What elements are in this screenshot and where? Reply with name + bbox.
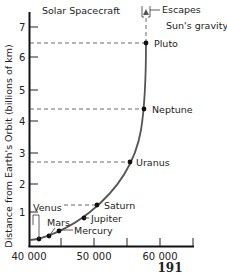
label-saturn: Saturn bbox=[104, 200, 135, 211]
marker-uranus bbox=[128, 160, 133, 165]
y-tick-labels: 7 6 5 4 3 2 1 bbox=[19, 22, 25, 218]
y-tick-2: 2 bbox=[19, 179, 25, 190]
label-jupiter: Jupiter bbox=[90, 213, 122, 224]
escape-label-line2: Sun's gravity bbox=[166, 20, 227, 31]
y-tick-7: 7 bbox=[19, 22, 25, 33]
page-number: 191 bbox=[157, 261, 182, 275]
label-venus: Venus bbox=[33, 202, 62, 213]
y-tick-6: 6 bbox=[19, 52, 25, 63]
y-tick-1: 1 bbox=[19, 207, 25, 218]
y-tick-3: 3 bbox=[19, 148, 25, 159]
label-uranus: Uranus bbox=[136, 157, 170, 168]
y-axis-label: Distance from Earth's Orbit (billions of… bbox=[3, 44, 14, 247]
marker-saturn bbox=[95, 203, 100, 208]
y-tick-5: 5 bbox=[19, 85, 25, 96]
x-ticks bbox=[61, 238, 193, 246]
label-neptune: Neptune bbox=[152, 104, 193, 115]
y-ticks bbox=[30, 27, 38, 212]
label-pluto: Pluto bbox=[154, 38, 178, 49]
y-tick-4: 4 bbox=[19, 116, 25, 127]
guide-lines bbox=[30, 14, 146, 205]
escape-label-line1: Escapes bbox=[162, 4, 201, 15]
marker-mercury bbox=[57, 229, 62, 234]
x-tick-50000: 50 000 bbox=[77, 251, 112, 262]
x-tick-40000: 40 000 bbox=[12, 251, 47, 262]
marker-neptune bbox=[142, 107, 147, 112]
escape-arrow-icon bbox=[142, 6, 160, 17]
chart: Solar Spacecraft Distance from Earth's O… bbox=[0, 0, 227, 277]
marker-pluto bbox=[144, 41, 149, 46]
label-mars: Mars bbox=[47, 217, 70, 228]
label-mercury: Mercury bbox=[74, 225, 113, 236]
chart-title: Solar Spacecraft bbox=[42, 5, 120, 16]
x-tick-labels: 40 000 50 000 60 000 bbox=[12, 251, 178, 262]
